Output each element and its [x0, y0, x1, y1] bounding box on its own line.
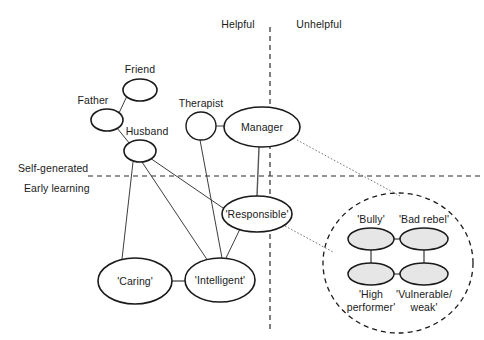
link-therapist-intelligent	[200, 140, 222, 258]
node-label-father: Father	[78, 94, 109, 106]
node-husband[interactable]	[124, 140, 156, 162]
link-responsible-group-dotted	[285, 226, 333, 252]
node-label-therapist: Therapist	[179, 97, 224, 109]
node-high-performer[interactable]	[348, 263, 394, 285]
node-therapist[interactable]	[186, 112, 216, 140]
axis-label-self-generated: Self-generated	[18, 162, 88, 174]
node-bad-rebel[interactable]	[400, 228, 448, 250]
link-husband-intelligent	[142, 162, 208, 261]
node-label-husband: Husband	[126, 125, 169, 137]
link-responsible-intelligent	[226, 229, 240, 258]
axis-label-early-learning: Early learning	[24, 182, 90, 194]
node-label-high-performer-line2: performer'	[347, 301, 396, 313]
node-label-bad-rebel: 'Bad rebel'	[399, 213, 449, 225]
axis-label-helpful: Helpful	[221, 18, 254, 30]
node-label-bully: 'Bully'	[357, 213, 384, 225]
node-friend[interactable]	[123, 79, 157, 101]
link-manager-group-dotted	[297, 140, 400, 196]
node-label-intelligent: 'Intelligent'	[195, 274, 245, 286]
node-label-friend: Friend	[125, 63, 155, 75]
node-label-vulnerable-weak-line1: 'Vulnerable/	[396, 288, 452, 300]
axis-label-unhelpful: Unhelpful	[296, 18, 341, 30]
node-label-caring: 'Caring'	[117, 275, 153, 287]
diagram-canvas: Helpful Unhelpful Self-generated Early l…	[0, 0, 484, 340]
node-bully[interactable]	[348, 228, 394, 250]
node-label-vulnerable-weak-line2: weak'	[410, 301, 437, 313]
node-label-responsible: 'Responsible'	[225, 208, 288, 220]
link-father-friend	[119, 96, 127, 113]
link-husband-responsible	[150, 158, 223, 208]
node-label-manager: Manager	[241, 121, 283, 133]
node-label-high-performer-line1: 'High	[359, 288, 383, 300]
node-father[interactable]	[91, 109, 123, 131]
link-manager-responsible	[257, 147, 259, 196]
node-vulnerable-weak[interactable]	[400, 263, 448, 285]
